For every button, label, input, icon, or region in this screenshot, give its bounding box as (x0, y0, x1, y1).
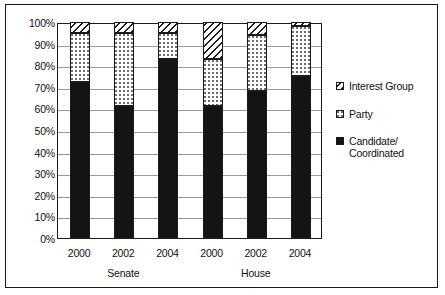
y-axis-tick-label: 30% (9, 169, 55, 179)
y-axis-tick-label: 40% (9, 148, 55, 158)
stacked-bar[interactable] (247, 24, 267, 238)
y-axis-tick-label: 20% (9, 191, 55, 201)
bar-segment[interactable] (247, 91, 267, 238)
plot-area (57, 23, 322, 239)
gridline (58, 154, 321, 155)
gridline (58, 218, 321, 219)
bar-segment[interactable] (158, 33, 178, 59)
dotted-icon (336, 110, 344, 118)
stacked-bar[interactable] (203, 24, 223, 238)
bar-segment[interactable] (203, 22, 223, 59)
y-axis-tick-label: 60% (9, 104, 55, 114)
x-axis-group-label: Senate (57, 267, 190, 279)
bar-segment[interactable] (247, 22, 267, 35)
solid-black-icon (336, 137, 344, 145)
chart-figure-frame: 100%90%80%70%60%50%40%30%20%10%0% 200020… (5, 4, 438, 288)
bar-segment[interactable] (70, 33, 90, 83)
bar-segment[interactable] (291, 26, 311, 76)
bar-group (158, 24, 178, 238)
gridline (58, 89, 321, 90)
bar-segment[interactable] (203, 106, 223, 238)
stacked-bar[interactable] (158, 24, 178, 238)
gridline (58, 197, 321, 198)
bar-segment[interactable] (291, 22, 311, 26)
x-axis-tick-label: 2004 (145, 247, 189, 259)
x-axis-tick-label: 2000 (190, 247, 234, 259)
legend-item[interactable]: Candidate/ Coordinated (336, 136, 436, 159)
y-axis-tick-label: 80% (9, 61, 55, 71)
legend-item-label: Party (349, 109, 436, 121)
bar-segment[interactable] (70, 82, 90, 238)
legend-item[interactable]: Interest Group (336, 81, 436, 93)
y-axis-tick-label: 50% (9, 126, 55, 136)
y-axis-tick-label: 90% (9, 40, 55, 50)
legend-item[interactable]: Party (336, 109, 436, 121)
bar-group (203, 24, 223, 238)
gridline (58, 110, 321, 111)
bar-group (70, 24, 90, 238)
bar-segment[interactable] (114, 33, 134, 106)
x-axis-group-label: House (190, 267, 323, 279)
gridline (58, 132, 321, 133)
bar-segment[interactable] (203, 59, 223, 107)
x-axis: 200020022004200020022004SenateHouse (57, 241, 322, 287)
bar-group (247, 24, 267, 238)
stacked-bar[interactable] (114, 24, 134, 238)
legend-item-label: Interest Group (349, 81, 436, 93)
diagonal-hatch-icon (336, 82, 344, 90)
legend-item-label: Candidate/ Coordinated (349, 136, 436, 159)
y-axis-tick-labels: 100%90%80%70%60%50%40%30%20%10%0% (6, 23, 55, 239)
x-axis-tick-label: 2000 (57, 247, 101, 259)
bar-segment[interactable] (158, 59, 178, 238)
bar-group (114, 24, 134, 238)
bar-segment[interactable] (158, 22, 178, 33)
bar-group (291, 24, 311, 238)
x-axis-tick-label: 2004 (278, 247, 322, 259)
gridline (58, 175, 321, 176)
x-axis-tick-label: 2002 (101, 247, 145, 259)
stacked-bar[interactable] (291, 24, 311, 238)
bar-segment[interactable] (114, 106, 134, 238)
chart-legend: Interest GroupPartyCandidate/ Coordinate… (336, 81, 436, 175)
y-axis-tick-label: 100% (9, 18, 55, 28)
y-axis-tick-label: 0% (9, 234, 55, 244)
bar-segment[interactable] (291, 76, 311, 238)
bar-segment[interactable] (114, 22, 134, 33)
y-axis-tick-label: 10% (9, 212, 55, 222)
x-axis-tick-label: 2002 (234, 247, 278, 259)
stacked-bar[interactable] (70, 24, 90, 238)
gridline (58, 67, 321, 68)
y-axis-tick-label: 70% (9, 83, 55, 93)
bar-segment[interactable] (70, 22, 90, 33)
gridline (58, 46, 321, 47)
bar-segment[interactable] (247, 35, 267, 91)
